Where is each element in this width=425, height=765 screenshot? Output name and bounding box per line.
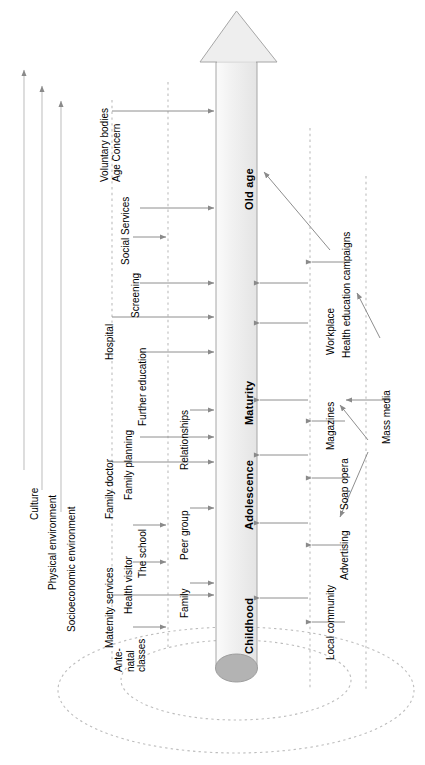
node-label-soap-opera: Soap opera	[339, 458, 350, 510]
conn-massmedia-healthedu	[357, 293, 380, 338]
stage-label-adolescence: Adolescence	[243, 460, 255, 530]
node-label-family-planning: Family planning	[123, 430, 134, 500]
node-label-local-community: Local community	[325, 585, 336, 660]
cylinder-base-ellipse	[216, 654, 258, 682]
node-label-screening: Screening	[130, 273, 141, 318]
node-label-health-education-campaigns: Health education campaigns	[341, 232, 352, 358]
stage-label-childhood: Childhood	[243, 598, 255, 654]
env-label-socioeconomic-environment: Socioeconomic environment	[66, 506, 77, 632]
diagram-canvas: Childhood Adolescence Maturity Old age C…	[0, 0, 425, 765]
node-label-the-school: The school	[137, 529, 148, 578]
stage-label-old-age: Old age	[243, 168, 255, 210]
inner-ring-connectors	[190, 410, 214, 583]
node-label-health-visitor: Health visitor	[123, 556, 134, 614]
node-label-peer-group: Peer group	[179, 511, 190, 560]
conn-healthedu-oldage	[264, 172, 330, 250]
node-label-antenatal-classes: Ante- natal classes	[113, 639, 148, 672]
voluntary-bodies-text: Voluntary bodies Age Concern	[99, 108, 122, 182]
env-label-physical-environment: Physical environment	[47, 495, 58, 590]
node-label-social-services: Social Services	[120, 197, 131, 265]
node-label-further-education: Further education	[137, 348, 148, 426]
node-label-magazines: Magazines	[325, 402, 336, 450]
service-connectors	[112, 111, 214, 627]
life-course-arrow	[200, 11, 277, 682]
node-label-maternity-services: Maternity services	[104, 567, 115, 648]
node-label-workplace: Workplace	[325, 308, 336, 355]
env-label-culture: Culture	[29, 488, 40, 520]
node-label-advertising: Advertising	[339, 531, 350, 580]
node-label-relationships: Relationships	[179, 410, 190, 470]
node-label-hospital: Hospital	[104, 324, 115, 360]
node-label-family: Family	[179, 589, 190, 618]
node-label-family-doctor: Family doctor	[104, 459, 115, 519]
stage-label-maturity: Maturity	[243, 381, 255, 425]
antenatal-classes-text: Ante- natal classes	[113, 639, 147, 672]
diagram-vector-layer	[0, 0, 425, 765]
environment-axis-arrows	[24, 70, 61, 512]
conn-massmedia-soapopera	[340, 405, 368, 440]
node-label-voluntary-bodies-age-concern: Voluntary bodies Age Concern	[99, 108, 123, 182]
node-label-mass-media: Mass media	[381, 390, 392, 444]
